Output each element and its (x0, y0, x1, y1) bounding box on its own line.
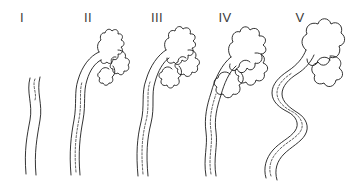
panel-label-v: V (295, 10, 304, 25)
figure-background (0, 0, 350, 185)
panel-label-iv: IV (218, 10, 231, 25)
panel-label-ii: II (84, 10, 92, 25)
figure-canvas: I II III IV (0, 0, 350, 185)
panel-label-iii: III (151, 10, 163, 25)
vascular-stage-figure: I II III IV (0, 0, 350, 185)
panel-label-i: I (20, 10, 24, 25)
